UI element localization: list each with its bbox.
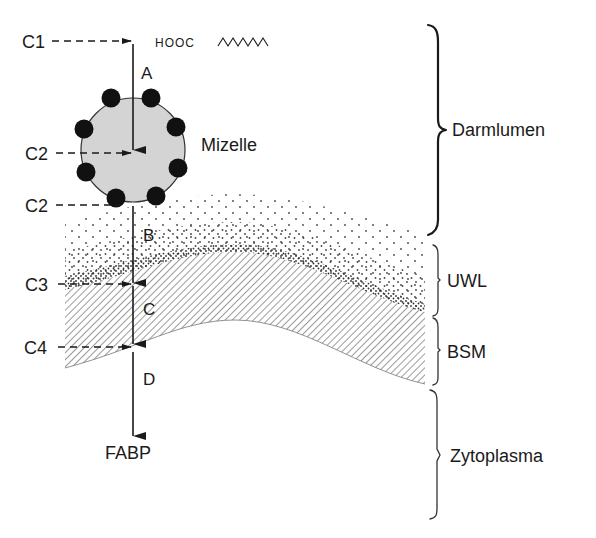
- label-c2-micelle: C2: [25, 144, 48, 164]
- label-c4: C4: [24, 338, 47, 358]
- micelle: [75, 89, 188, 208]
- label-c1: C1: [22, 32, 45, 52]
- label-uwl: UWL: [447, 271, 487, 291]
- brace-lumen-icon: [428, 25, 446, 235]
- fatty-acid-tail-icon: [218, 38, 268, 46]
- brace-uwl-icon: [433, 245, 440, 316]
- label-c2-surface: C2: [25, 196, 48, 216]
- fatty-acid-transport-diagram: C1 C2 C2 C3 C4 A B C D HOOC Mizelle FABP…: [0, 0, 596, 538]
- label-c3: C3: [25, 275, 48, 295]
- label-darmlumen: Darmlumen: [452, 120, 545, 140]
- label-micelle: Mizelle: [201, 135, 257, 155]
- label-step-d: D: [143, 370, 155, 389]
- label-step-a: A: [141, 64, 153, 83]
- label-fabp: FABP: [105, 443, 151, 463]
- label-step-b: B: [143, 226, 154, 245]
- label-hooc: HOOC: [155, 36, 195, 50]
- label-zytoplasma: Zytoplasma: [450, 446, 544, 466]
- brace-bsm-icon: [433, 318, 440, 385]
- label-bsm: BSM: [447, 342, 486, 362]
- label-step-c: C: [143, 300, 155, 319]
- brace-cytoplasm-icon: [430, 390, 440, 519]
